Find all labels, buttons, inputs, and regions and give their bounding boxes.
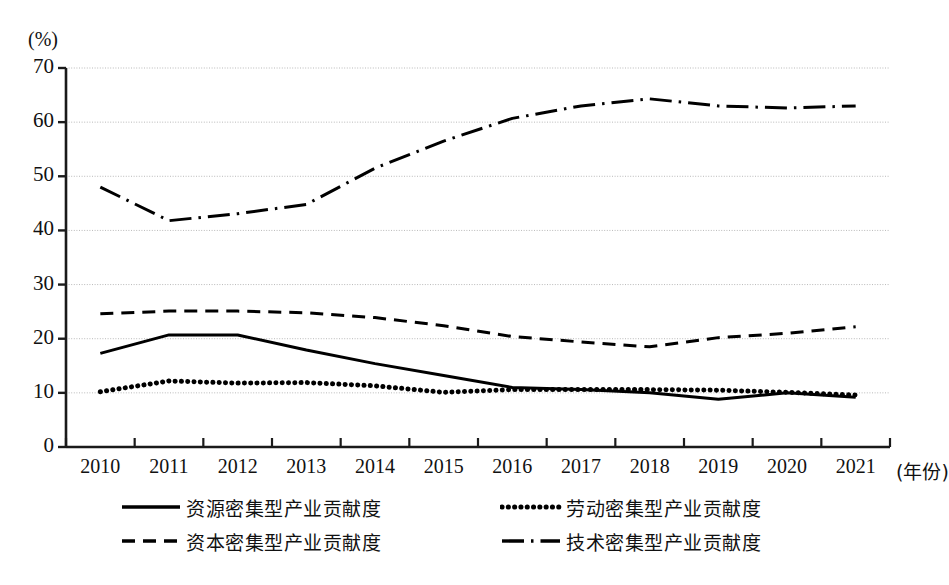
legend-label: 技术密集型产业贡献度: [566, 528, 761, 555]
y-axis-tick-label: 20: [8, 325, 54, 350]
legend-label: 劳动密集型产业贡献度: [566, 494, 761, 521]
data-series-line: [100, 99, 855, 221]
legend-swatch-dashed-icon: [120, 533, 182, 549]
x-axis-tick-label: 2016: [479, 455, 545, 478]
legend-swatch-dashdot-icon: [500, 533, 562, 549]
x-axis-tick-label: 2020: [754, 455, 820, 478]
data-series-line: [100, 381, 855, 395]
legend-item[interactable]: 资源密集型产业贡献度: [120, 492, 381, 522]
x-axis-tick-label: 2014: [342, 455, 408, 478]
y-axis-tick-label: 40: [8, 216, 54, 241]
x-axis-tick-label: 2013: [273, 455, 339, 478]
x-axis-tick-label: 2011: [136, 455, 202, 478]
y-axis-tick-label: 60: [8, 108, 54, 133]
y-axis-tick-label: 30: [8, 271, 54, 296]
y-axis-tick-label: 10: [8, 379, 54, 404]
legend-swatch-dotted-icon: [500, 499, 562, 515]
x-axis-tick-label: 2021: [823, 455, 889, 478]
x-axis-tick-label: 2018: [617, 455, 683, 478]
x-axis-tick-label: 2015: [411, 455, 477, 478]
x-axis-unit-label: (年份): [896, 457, 949, 484]
y-axis-tick-label: 70: [8, 54, 54, 79]
legend-label: 资源密集型产业贡献度: [186, 494, 381, 521]
x-axis-tick-label: 2010: [67, 455, 133, 478]
y-axis-tick-label: 50: [8, 162, 54, 187]
x-axis-tick-label: 2017: [548, 455, 614, 478]
x-axis-tick-label: 2019: [685, 455, 751, 478]
y-axis-tick-label: 0: [8, 433, 54, 458]
legend-item[interactable]: 劳动密集型产业贡献度: [500, 492, 761, 522]
data-series-line: [100, 311, 855, 347]
legend-item[interactable]: 资本密集型产业贡献度: [120, 526, 381, 556]
legend-label: 资本密集型产业贡献度: [186, 528, 381, 555]
legend-item[interactable]: 技术密集型产业贡献度: [500, 526, 761, 556]
x-axis-tick-label: 2012: [205, 455, 271, 478]
legend-swatch-solid-icon: [120, 499, 182, 515]
chart-legend: 资源密集型产业贡献度劳动密集型产业贡献度资本密集型产业贡献度技术密集型产业贡献度: [120, 492, 820, 562]
